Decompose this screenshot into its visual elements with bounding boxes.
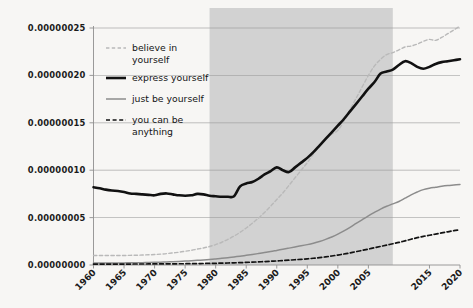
chart-canvas: 0.000000000.000000050.000000100.00000015…	[0, 0, 473, 308]
y-axis-tick-label: 0.00000025	[28, 23, 86, 33]
line-chart: 0.000000000.000000050.000000100.00000015…	[0, 0, 473, 308]
legend-label: just be yourself	[131, 93, 205, 104]
shaded-period-rect	[210, 8, 393, 265]
y-axis-tick-label: 0.00000000	[28, 260, 86, 270]
legend-label: believe in	[132, 42, 177, 53]
highlight-span	[210, 8, 393, 265]
legend-label: express yourself	[132, 72, 209, 83]
y-axis-tick-label: 0.00000015	[28, 118, 86, 128]
legend-label-continued: anything	[132, 126, 173, 137]
legend-label-continued: yourself	[132, 54, 170, 65]
y-axis-tick-label: 0.00000010	[28, 165, 86, 175]
y-axis-tick-label: 0.00000005	[28, 213, 86, 223]
legend-label: you can be	[132, 114, 184, 125]
y-axis-tick-label: 0.00000020	[28, 70, 86, 80]
